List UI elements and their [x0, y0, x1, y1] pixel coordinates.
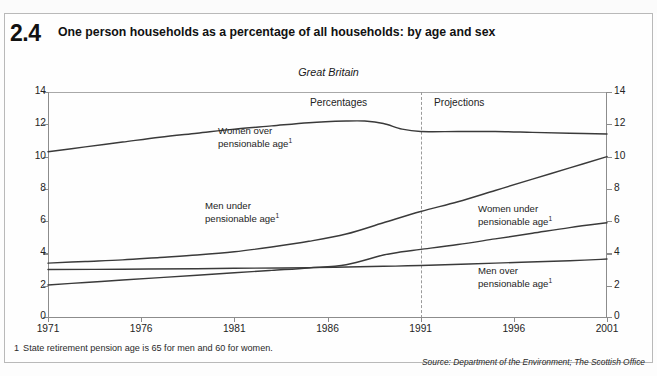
- y-label-2: 2: [6, 279, 46, 290]
- y-label-right-4: 4: [614, 246, 654, 257]
- y-tick-right-4: [607, 253, 612, 254]
- line-women-over-pensionable-age: [48, 121, 607, 152]
- series-label-men-under: Men under pensionable age1: [205, 200, 279, 226]
- series-label-women-over-line2: pensionable age: [218, 138, 288, 149]
- page-top-strip: [0, 0, 657, 13]
- figure-title: One person households as a percentage of…: [58, 25, 628, 40]
- y-tick-right-6: [607, 221, 612, 222]
- y-label-4: 4: [6, 246, 46, 257]
- series-label-men-under-footnote-marker: 1: [275, 212, 279, 219]
- series-label-women-over-line1: Women over: [218, 125, 272, 136]
- y-label-10: 10: [6, 150, 46, 161]
- y-tick-right-8: [607, 189, 612, 190]
- x-label-1976: 1976: [111, 323, 171, 334]
- series-label-women-under-line1: Women under: [478, 203, 538, 214]
- y-tick-right-10: [607, 157, 612, 158]
- y-label-0: 0: [6, 310, 46, 321]
- y-label-8: 8: [6, 182, 46, 193]
- y-tick-right-14: [607, 92, 612, 93]
- series-label-women-over: Women over pensionable age1: [218, 125, 292, 151]
- y-label-right-12: 12: [614, 117, 654, 128]
- series-label-men-over: Men over pensionable age1: [478, 265, 552, 291]
- figure-number: 2.4: [10, 22, 40, 45]
- x-label-2001: 2001: [577, 323, 637, 334]
- series-label-men-over-line1: Men over: [478, 265, 518, 276]
- y-label-12: 12: [6, 117, 46, 128]
- source-note: Source: Department of the Environment; T…: [422, 357, 645, 367]
- y-label-right-6: 6: [614, 214, 654, 225]
- y-label-right-2: 2: [614, 279, 654, 290]
- figure-page: 2.4 One person households as a percentag…: [0, 0, 657, 376]
- x-label-1971: 1971: [18, 323, 78, 334]
- y-tick-right-2: [607, 286, 612, 287]
- y-label-14: 14: [6, 85, 46, 96]
- region-label: Great Britain: [0, 66, 657, 78]
- y-tick-right-12: [607, 124, 612, 125]
- y-label-right-14: 14: [614, 85, 654, 96]
- series-label-women-under: Women under pensionable age1: [478, 203, 552, 229]
- series-label-men-under-line2: pensionable age: [205, 213, 275, 224]
- x-label-1981: 1981: [204, 323, 264, 334]
- x-label-1991: 1991: [391, 323, 451, 334]
- series-label-women-over-footnote-marker: 1: [288, 137, 292, 144]
- footnote-text: State retirement pension age is 65 for m…: [23, 343, 273, 353]
- x-label-1996: 1996: [484, 323, 544, 334]
- series-label-men-under-line1: Men under: [205, 200, 251, 211]
- y-label-6: 6: [6, 214, 46, 225]
- series-label-women-under-line2: pensionable age: [478, 216, 548, 227]
- y-label-right-8: 8: [614, 182, 654, 193]
- series-label-men-over-footnote-marker: 1: [548, 277, 552, 284]
- y-label-right-10: 10: [614, 150, 654, 161]
- x-label-1986: 1986: [298, 323, 358, 334]
- footnote-number: 1: [14, 343, 19, 353]
- footnote: 1State retirement pension age is 65 for …: [14, 343, 273, 353]
- y-label-right-0: 0: [614, 310, 654, 321]
- series-label-men-over-line2: pensionable age: [478, 278, 548, 289]
- series-label-women-under-footnote-marker: 1: [548, 215, 552, 222]
- x-tick-2001: [607, 317, 608, 322]
